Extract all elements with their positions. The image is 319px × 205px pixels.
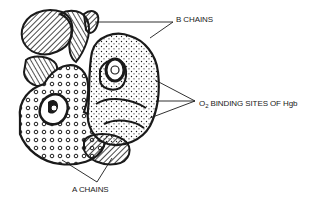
leader-b-chains-2	[150, 22, 173, 38]
label-a-chains: A CHAINS	[72, 186, 109, 194]
b-chains-text: B CHAINS	[176, 15, 213, 24]
leader-o2-1	[155, 80, 195, 101]
b-chain-region	[88, 34, 159, 145]
a-chains-text: A CHAINS	[72, 185, 109, 194]
label-b-chains: B CHAINS	[176, 16, 213, 24]
o2-rest-text: BINDING SITES OF Hgb	[208, 99, 297, 108]
label-o2-binding-sites: O2 BINDING SITES OF Hgb	[199, 100, 297, 109]
